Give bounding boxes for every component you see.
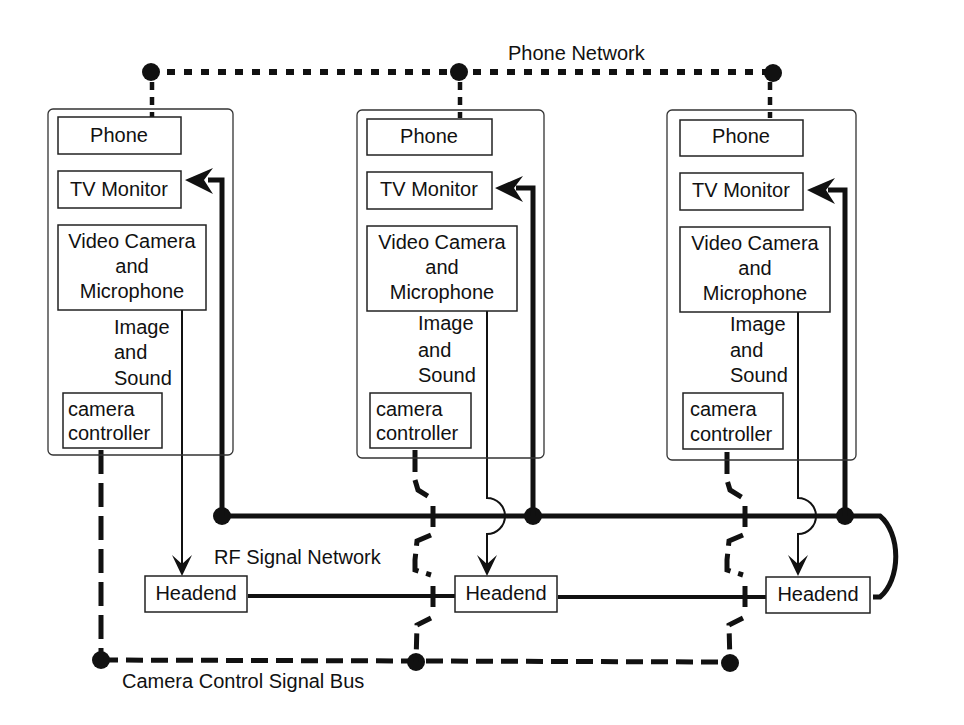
tv-monitor-label: TV Monitor — [380, 178, 478, 200]
tv-monitor-label: TV Monitor — [70, 178, 168, 200]
svg-text:camera: camera — [376, 398, 444, 420]
camera-bus-label: Camera Control Signal Bus — [122, 670, 364, 692]
phone-node-1 — [142, 63, 160, 81]
svg-text:Video Camera: Video Camera — [68, 230, 196, 252]
network-diagram: Phone Network RF Signal Network — [0, 0, 964, 725]
svg-text:camera: camera — [68, 398, 136, 420]
svg-text:Microphone: Microphone — [80, 280, 185, 302]
rf-network-label: RF Signal Network — [214, 546, 382, 568]
svg-text:and: and — [738, 257, 771, 279]
svg-text:Headend: Headend — [465, 582, 546, 604]
svg-text:Sound: Sound — [418, 364, 476, 386]
phone-label: Phone — [90, 124, 148, 146]
svg-text:Headend: Headend — [777, 583, 858, 605]
svg-text:Image: Image — [418, 312, 474, 334]
svg-text:Microphone: Microphone — [390, 281, 495, 303]
svg-text:and: and — [114, 341, 147, 363]
phone-label: Phone — [712, 125, 770, 147]
phone-network-label: Phone Network — [508, 42, 646, 64]
phone-node-3 — [764, 64, 782, 82]
svg-text:camera: camera — [690, 398, 758, 420]
phone-node-2 — [450, 63, 468, 81]
station-unit-3: Phone TV Monitor Video Camera and Microp… — [667, 110, 856, 460]
tv-monitor-label: TV Monitor — [692, 179, 790, 201]
svg-text:Headend: Headend — [155, 582, 236, 604]
station-unit-1: Phone TV Monitor Video Camera and Microp… — [48, 109, 233, 455]
svg-text:controller: controller — [376, 422, 459, 444]
station-unit-2: Phone TV Monitor Video Camera and Microp… — [357, 110, 544, 458]
svg-text:controller: controller — [690, 423, 773, 445]
svg-text:controller: controller — [68, 422, 151, 444]
svg-text:Sound: Sound — [730, 364, 788, 386]
svg-text:Microphone: Microphone — [703, 282, 808, 304]
headend-1: Headend — [145, 576, 247, 612]
camera-control-bus — [92, 450, 745, 672]
headend-3: Headend — [766, 577, 870, 613]
svg-text:and: and — [115, 255, 148, 277]
svg-text:Image: Image — [114, 316, 170, 338]
svg-text:and: and — [730, 339, 763, 361]
svg-text:Sound: Sound — [114, 367, 172, 389]
svg-text:and: and — [418, 339, 451, 361]
svg-text:and: and — [425, 256, 458, 278]
svg-text:Image: Image — [730, 313, 786, 335]
phone-label: Phone — [400, 125, 458, 147]
svg-text:Video Camera: Video Camera — [691, 232, 819, 254]
svg-text:Video Camera: Video Camera — [378, 231, 506, 253]
headend-2: Headend — [455, 576, 557, 612]
